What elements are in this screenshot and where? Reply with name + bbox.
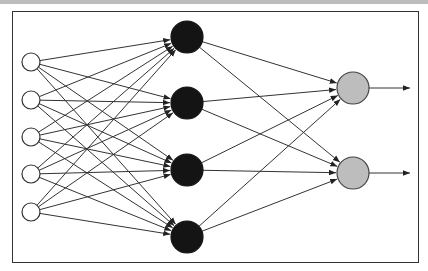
- input-node-5: [22, 203, 40, 221]
- input-to-hidden-edge: [38, 48, 174, 168]
- input-to-hidden-edge: [40, 100, 170, 103]
- hidden-to-output-edge: [203, 90, 336, 102]
- input-to-hidden-edge: [37, 69, 176, 225]
- hidden-node-2: [171, 87, 203, 119]
- hidden-to-output-edge: [199, 99, 340, 226]
- input-to-hidden-edge: [37, 50, 176, 206]
- hidden-node-1: [171, 21, 203, 53]
- input-to-hidden-edge: [38, 113, 173, 207]
- input-to-hidden-edge: [40, 213, 170, 234]
- neural-network-diagram: [0, 0, 428, 271]
- input-node-1: [22, 53, 40, 71]
- hidden-node-3: [171, 154, 203, 186]
- input-node-4: [22, 165, 40, 183]
- hidden-to-output-edge: [202, 42, 336, 83]
- hidden-to-output-edge: [202, 109, 338, 166]
- nodes: [22, 21, 369, 253]
- hidden-to-output-edge: [203, 170, 336, 172]
- output-node-1: [337, 72, 369, 104]
- input-node-3: [22, 128, 40, 146]
- input-to-hidden-edge: [40, 139, 171, 167]
- input-to-hidden-edge: [39, 43, 171, 96]
- connections: [37, 40, 410, 235]
- hidden-node-4: [171, 221, 203, 253]
- input-to-hidden-edge: [40, 40, 170, 61]
- hidden-to-output-edge: [201, 96, 337, 163]
- input-to-hidden-edge: [40, 107, 171, 135]
- output-node-2: [337, 157, 369, 189]
- input-node-2: [22, 91, 40, 109]
- input-to-hidden-edge: [40, 170, 170, 173]
- input-to-hidden-edge: [39, 104, 171, 163]
- input-to-hidden-edge: [38, 106, 174, 226]
